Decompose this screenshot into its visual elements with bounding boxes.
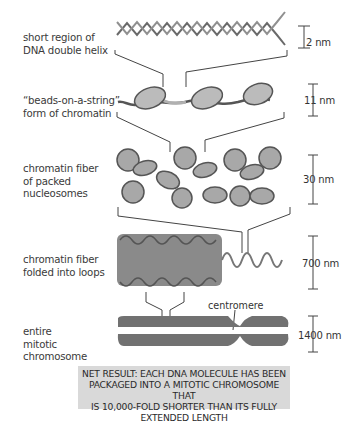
net-result-line-1: NET RESULT: EACH DNA MOLECULE HAS BEEN: [78, 368, 290, 379]
mitotic-chromosome-icon: [118, 316, 289, 346]
net-result-line-3: IS 10,000-FOLD SHORTER THAN ITS FULLY: [78, 401, 290, 412]
chromatin-loops-icon: [117, 234, 282, 286]
nucleosome-beads-icon: [118, 79, 276, 112]
chromatin-fiber-icon: [117, 147, 281, 208]
net-result-line-4: EXTENDED LENGTH: [78, 412, 290, 423]
net-result-box: NET RESULT: EACH DNA MOLECULE HAS BEEN P…: [78, 366, 290, 409]
net-result-line-2: PACKAGED INTO A MITOTIC CHROMOSOME THAT: [78, 379, 290, 401]
dna-helix-icon: [117, 12, 285, 45]
